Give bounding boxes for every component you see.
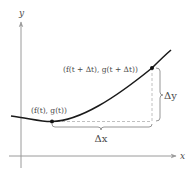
delta-x-bracket <box>52 124 152 130</box>
point-start <box>50 120 54 124</box>
x-axis-label: x <box>180 151 185 161</box>
delta-y-bracket <box>156 68 163 121</box>
delta-x-label: Δx <box>95 133 108 144</box>
parametric-curve-diagram: y x Δx Δy (f(t), g(t)) (f(t + Δt), g(t +… <box>0 0 189 176</box>
y-axis-label: y <box>18 8 25 18</box>
point-end <box>150 66 154 70</box>
delta-y-label: Δy <box>164 90 177 101</box>
end-point-label: (f(t + Δt), g(t + Δt)) <box>63 65 138 74</box>
start-point-label: (f(t), g(t)) <box>31 106 67 115</box>
